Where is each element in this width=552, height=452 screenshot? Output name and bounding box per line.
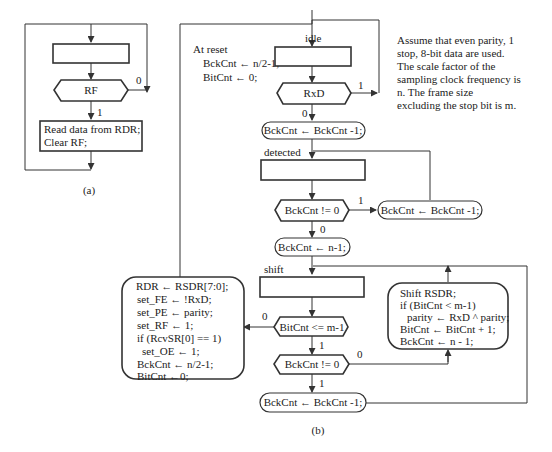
branch-0-label: 0 (320, 223, 326, 235)
diagram-b: At reset BckCnt ← n/2-1; BitCnt ← 0; idl… (122, 10, 527, 437)
branch-0-label: 0 (262, 310, 268, 322)
decision-label: BckCnt != 0 (285, 204, 340, 216)
decision-label: BckCnt != 0 (285, 358, 340, 370)
action-label: BckCnt ← n-1; (278, 241, 346, 253)
decision-rxd-label: RxD (304, 87, 325, 99)
state-label-shift: shift (264, 263, 284, 275)
state-label-detected: detected (264, 146, 301, 158)
note-line: sampling clock frequency is (397, 73, 521, 85)
action-dec-idle-label: BckCnt ← BckCnt -1; (264, 124, 363, 136)
diagram-a: RF 0 1 Read data from RDR; Clear RF; (a) (25, 24, 147, 197)
action-label: BckCnt ← BckCnt -1; (264, 396, 363, 408)
action-line: RDR ← RSDR[7:0]; (136, 280, 228, 292)
caption-b: (b) (312, 424, 325, 437)
branch-0-label: 0 (357, 348, 363, 360)
branch-1-label: 1 (358, 79, 364, 91)
branch-1-label: 1 (358, 194, 364, 206)
action-label: BckCnt ← BckCnt -1; (381, 204, 480, 216)
flowchart-canvas: RF 0 1 Read data from RDR; Clear RF; (a)… (0, 0, 552, 452)
decision-label: BitCnt <= m-1 (280, 321, 345, 333)
action-line: Read data from RDR; (44, 123, 140, 135)
branch-0-label: 0 (302, 107, 308, 119)
action-line: set_FE ← !RxD; (137, 293, 212, 305)
action-line: if (RcvSR[0] == 1) (137, 332, 222, 345)
caption-a: (a) (83, 184, 96, 197)
note-line: Assume that even parity, 1 (397, 34, 514, 46)
action-line: Shift RSDR; (400, 287, 456, 299)
action-line: BckCnt ← n/2-1; (137, 358, 213, 370)
note-line: The scale factor of the (397, 60, 495, 72)
branch-0-label: 0 (136, 74, 142, 86)
note-line: n. The frame size (397, 86, 473, 98)
action-line: BitCnt ←0; (137, 370, 189, 382)
branch-1-label: 1 (319, 377, 325, 389)
state-box-idle (275, 47, 351, 66)
action-line: parity ← RxD ^ parity; (407, 311, 509, 323)
branch-1-label: 1 (97, 106, 103, 118)
decision-rf-label: RF (84, 84, 97, 96)
reset-title: At reset (193, 43, 228, 55)
action-line: BitCnt ← BitCnt + 1; (400, 323, 495, 335)
state-box-detected (261, 160, 365, 180)
reset-line: BitCnt ← 0; (203, 71, 257, 83)
note-line: stop, 8-bit data are used. (397, 47, 505, 59)
action-line: set_PE ← parity; (137, 306, 213, 318)
branch-1-label: 1 (319, 339, 325, 351)
reset-line: BckCnt ← n/2-1; (203, 57, 279, 69)
state-label-idle: idle (305, 32, 322, 44)
note-line: excluding the stop bit is m. (397, 99, 516, 111)
action-line: BckCnt ← n - 1; (400, 335, 473, 347)
action-line: Clear RF; (44, 136, 87, 148)
action-line: set_RF ← 1; (137, 319, 193, 331)
state-box-shift (260, 277, 364, 297)
state-box-a (53, 44, 129, 63)
action-line: set_OE ← 1; (142, 345, 199, 357)
